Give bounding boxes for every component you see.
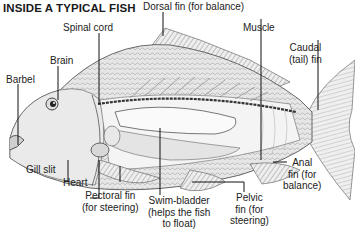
label-spinal-cord: Spinal cord xyxy=(63,22,113,34)
label-swim-line1: Swim-bladder xyxy=(148,195,210,207)
diagram-title: INSIDE A TYPICAL FISH xyxy=(3,2,136,14)
label-pectoral-line1: Pectoral fin xyxy=(82,190,139,202)
label-anal-line3: balance) xyxy=(283,180,321,192)
label-swim-bladder: Swim-bladder (helps the fish to float) xyxy=(148,195,210,230)
label-dorsal-fin: Dorsal fin (for balance) xyxy=(143,1,244,13)
label-gill-slit: Gill slit xyxy=(26,164,55,176)
label-pelvic-line1: Pelvic xyxy=(230,192,269,204)
label-pelvic-line2: fin (for xyxy=(230,204,269,216)
label-caudal-fin: Caudal (tail) fin xyxy=(289,42,322,65)
label-anal-line1: Anal xyxy=(283,157,321,169)
heart-shape xyxy=(91,143,109,157)
label-caudal-line1: Caudal xyxy=(289,42,322,54)
label-heart: Heart xyxy=(63,177,87,189)
label-barbel: Barbel xyxy=(6,74,35,86)
label-pelvic-fin: Pelvic fin (for steering) xyxy=(230,192,269,227)
label-brain: Brain xyxy=(50,55,73,67)
label-caudal-line2: (tail) fin xyxy=(289,54,322,66)
label-swim-line2: (helps the fish xyxy=(148,207,210,219)
label-pelvic-line3: steering) xyxy=(230,215,269,227)
label-anal-fin: Anal fin (for balance) xyxy=(283,157,321,192)
label-anal-line2: fin (for xyxy=(283,169,321,181)
label-muscle: Muscle xyxy=(243,22,275,34)
label-pectoral-line2: (for steering) xyxy=(82,202,139,214)
label-pectoral-fin: Pectoral fin (for steering) xyxy=(82,190,139,213)
label-swim-line3: to float) xyxy=(148,218,210,230)
